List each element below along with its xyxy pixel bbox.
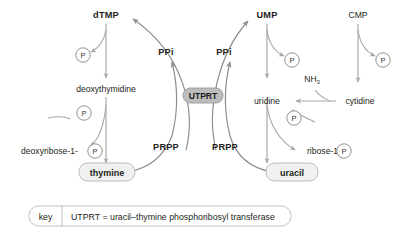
phosphate-ump: P [285, 53, 299, 67]
key-legend: key UTPRT = uracil–thymine phosphoribosy… [29, 206, 291, 226]
label-ppi-right: PPi [216, 47, 231, 57]
edge-prpp-right-to-ppi-right [226, 62, 231, 136]
pathway-diagram-page: dTMP deoxythymidine deoxyribose-1- UMP u… [0, 0, 404, 249]
phosphate-label: P [92, 147, 97, 156]
node-box-uracil: uracil [266, 163, 318, 181]
phosphate-uridine: P [287, 111, 301, 125]
edge-deoxythymidine-to-deoxyribose [90, 105, 106, 146]
node-deoxythymidine: deoxythymidine [76, 84, 136, 94]
ammonia-base: NH [304, 74, 316, 84]
edge-salvage-to-ump [213, 21, 248, 150]
node-cytidine: cytidine [345, 96, 374, 106]
edge-prpp-left-to-ppi-left [172, 62, 177, 136]
phosphate-label: P [80, 51, 85, 60]
label-prpp-left: PRPP [153, 142, 179, 152]
edge-dtmp-to-phosphate [91, 30, 106, 52]
enzyme-label: UTPRT [189, 91, 218, 101]
edge-phosphate-into-deoxythymidine [48, 117, 70, 119]
pathway-diagram-canvas: dTMP deoxythymidine deoxyribose-1- UMP u… [0, 0, 404, 249]
thymine-label: thymine [90, 168, 125, 178]
node-cmp: CMP [348, 10, 367, 20]
enzyme-node-utprt: UTPRT [183, 88, 223, 103]
phosphate-ribose: P [337, 144, 351, 158]
node-deoxyribose-1-phosphate: deoxyribose-1- [21, 146, 78, 156]
edge-cmp-to-phosphate [358, 30, 375, 56]
label-ppi-left: PPi [158, 47, 173, 57]
label-ammonia: NH3 [304, 74, 320, 85]
phosphate-label: P [81, 109, 86, 118]
key-label: key [39, 212, 53, 222]
phosphate-dtmp: P [76, 48, 90, 62]
edge-ump-to-phosphate [267, 30, 284, 56]
edge-salvage-to-dtmp [133, 19, 189, 150]
node-ump: UMP [256, 10, 277, 20]
node-dtmp: dTMP [93, 10, 119, 20]
node-uridine: uridine [254, 96, 280, 106]
phosphate-cmp: P [376, 53, 390, 67]
phosphate-label: P [380, 56, 385, 65]
key-text: UTPRT = uracil–thymine phosphoribosyl tr… [71, 212, 275, 222]
phosphate-label: P [291, 114, 296, 123]
phosphate-deoxyribose: P [88, 144, 102, 158]
edge-cytidine-to-ammonia [315, 90, 330, 101]
phosphate-deoxythymidine: P [77, 106, 91, 120]
uracil-label: uracil [280, 168, 304, 178]
node-ribose-1-phosphate: ribose-1- [307, 146, 341, 156]
ammonia-subscript: 3 [317, 79, 320, 85]
phosphate-label: P [341, 147, 346, 156]
phosphate-label: P [289, 56, 294, 65]
label-prpp-right: PRPP [212, 142, 238, 152]
node-box-thymine: thymine [79, 163, 135, 181]
